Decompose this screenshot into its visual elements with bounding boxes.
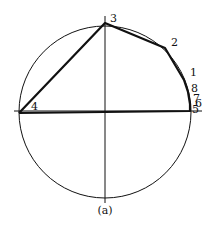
point-label-3: 3 bbox=[110, 12, 117, 25]
diagram-canvas: 12345678 (a) bbox=[0, 0, 213, 225]
caption: (a) bbox=[97, 204, 112, 217]
point-label-4: 4 bbox=[31, 100, 38, 113]
point-label-8: 8 bbox=[191, 82, 198, 95]
point-label-1: 1 bbox=[190, 66, 197, 79]
point-label-2: 2 bbox=[171, 36, 178, 49]
